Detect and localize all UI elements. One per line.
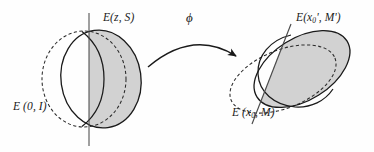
label-phi-map: ϕ — [186, 10, 193, 26]
left-shaded-region — [55, 25, 148, 133]
label-e-0-i: E (0, I) — [13, 100, 47, 112]
label-e-x0prime-mprime-argtail: ', M') — [316, 11, 341, 23]
label-e-x0-m-arghead: (x — [242, 106, 251, 118]
label-e-x0-m-argtail: , M) — [255, 106, 275, 118]
left-ellipse-group — [42, 13, 147, 146]
phi-arrow — [148, 45, 236, 67]
label-e-x0-m: E (x0, M) — [232, 106, 275, 120]
label-e-z-s: E(z, S) — [103, 11, 134, 23]
label-e-x0prime-mprime: E(x0', M') — [296, 11, 341, 25]
label-e-x0prime-mprime-arghead: (x — [303, 11, 312, 23]
geometry-figure: E(z, S) E (0, I) ϕ E(x0', M') E (x0, M) — [0, 0, 374, 152]
